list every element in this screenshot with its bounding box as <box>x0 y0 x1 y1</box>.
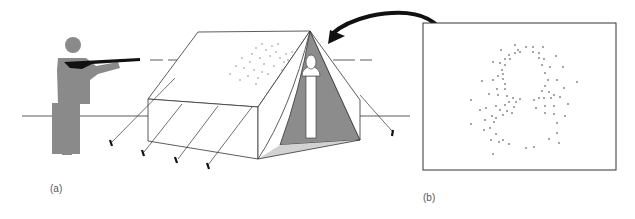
tent <box>148 31 360 159</box>
panel-b-label: (b) <box>423 192 435 203</box>
shooter-figure <box>52 37 120 155</box>
panel-a-label: (a) <box>50 183 62 194</box>
back-wall-panel <box>423 23 616 170</box>
diagram-canvas <box>0 0 635 219</box>
